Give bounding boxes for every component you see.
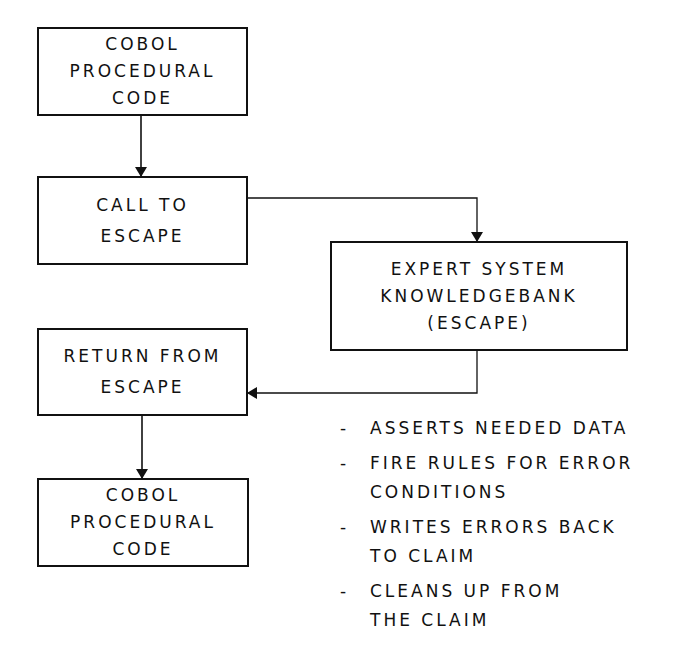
note-item: - ASSERTS NEEDED DATA [340,414,633,443]
box-return-from-escape: RETURN FROM ESCAPE [37,328,248,416]
note-line: THE CLAIM [370,606,633,635]
note-line: FIRE RULES FOR ERROR [370,449,633,478]
expert-system-notes: - ASSERTS NEEDED DATA - FIRE RULES FOR E… [340,414,633,641]
bullet-dash: - [340,414,349,443]
box-label-line: PROCEDURAL [70,509,216,536]
bullet-dash: - [340,577,349,606]
bullet-dash: - [340,513,349,542]
box-label-line: COBOL [105,31,179,58]
note-item: - FIRE RULES FOR ERROR CONDITIONS [340,449,633,507]
box-label-line: ESCAPE [100,223,184,250]
note-line: CLEANS UP FROM [370,577,633,606]
box-label-line: EXPERT SYSTEM [391,256,568,283]
bullet-dash: - [340,449,349,478]
box-label-line: CODE [112,536,173,563]
box-cobol-procedural-code-end: COBOL PROCEDURAL CODE [37,478,249,567]
note-line: WRITES ERRORS BACK [370,513,633,542]
box-label-line: KNOWLEDGEBANK [380,283,577,310]
box-expert-system-knowledgebank: EXPERT SYSTEM KNOWLEDGEBANK (ESCAPE) [330,241,628,351]
arrow-call-to-expert [247,198,477,241]
note-line: ASSERTS NEEDED DATA [370,414,633,443]
box-label-line: RETURN FROM [64,343,222,370]
note-line: TO CLAIM [370,542,633,571]
box-cobol-procedural-code-start: COBOL PROCEDURAL CODE [37,27,248,116]
arrow-expert-to-return [248,350,477,393]
note-item: - CLEANS UP FROM THE CLAIM [340,577,633,635]
note-line: CONDITIONS [370,478,633,507]
box-label-line: PROCEDURAL [70,58,216,85]
box-label-line: COBOL [106,482,180,509]
box-label-line: ESCAPE [100,374,184,401]
box-label-line: CALL TO [96,192,189,219]
note-item: - WRITES ERRORS BACK TO CLAIM [340,513,633,571]
box-label-line: CODE [112,85,173,112]
box-label-line: (ESCAPE) [427,310,530,337]
box-call-to-escape: CALL TO ESCAPE [37,176,248,265]
